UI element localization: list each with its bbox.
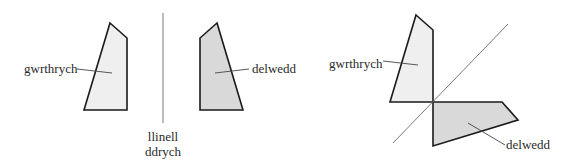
left-object-label: gwrthrych xyxy=(24,61,77,76)
left-panel xyxy=(77,13,249,123)
mirror-line-label-line1: llinell xyxy=(133,129,193,144)
left-object-shape xyxy=(84,23,127,110)
reflection-diagram xyxy=(0,0,566,164)
left-image-label: delwedd xyxy=(252,61,296,76)
right-object-shape xyxy=(390,15,433,102)
mirror-line-label-line2: ddrych xyxy=(133,144,193,159)
left-image-shape xyxy=(200,23,243,110)
right-image-label: delwedd xyxy=(506,137,550,152)
right-object-label: gwrthrych xyxy=(329,56,382,71)
mirror-line-label: llinell ddrych xyxy=(133,129,193,159)
right-panel xyxy=(383,15,518,146)
